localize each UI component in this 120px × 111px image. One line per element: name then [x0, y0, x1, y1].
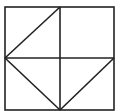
diagonal-bottom-right — [60, 58, 114, 110]
diagonal-bottom-left — [5, 58, 60, 110]
geometric-diagram — [0, 0, 120, 111]
diagonal-top-left — [5, 7, 60, 58]
interior-lines — [5, 7, 114, 110]
